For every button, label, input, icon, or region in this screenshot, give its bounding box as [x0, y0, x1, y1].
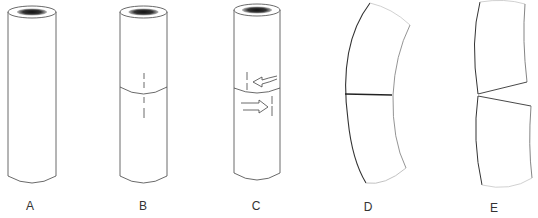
cylinder-c	[234, 4, 280, 180]
panel-label-e: E	[484, 201, 504, 215]
curved-tube-e	[474, 0, 532, 187]
curved-tube-d	[345, 3, 410, 183]
cylinder-a	[8, 6, 56, 183]
arrow-left-icon	[253, 76, 277, 87]
panel-label-b: B	[133, 199, 153, 213]
panel-label-c: C	[246, 199, 266, 213]
cylinder-b	[120, 6, 167, 183]
illustration	[0, 0, 538, 218]
panel-label-d: D	[358, 200, 378, 214]
panel-label-a: A	[20, 199, 40, 213]
figure: A B C D E	[0, 0, 538, 218]
arrow-right-icon	[241, 100, 268, 113]
